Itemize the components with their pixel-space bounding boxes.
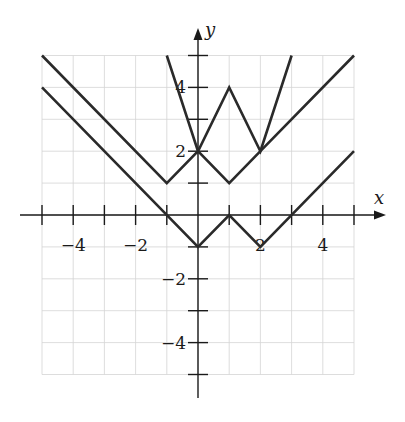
- x-axis-arrow-icon: [374, 211, 386, 220]
- x-tick-label: −4: [61, 235, 86, 255]
- y-tick-label: −4: [161, 333, 186, 353]
- y-axis-arrow-icon: [194, 28, 203, 40]
- coordinate-plane: −4−22442−2−4 x y: [0, 0, 405, 422]
- x-tick-label: −2: [123, 235, 148, 255]
- x-tick-label: 2: [255, 235, 266, 255]
- x-tick-label: 4: [317, 235, 328, 255]
- y-axis-label: y: [204, 19, 216, 40]
- y-tick-label: 2: [175, 141, 186, 161]
- y-tick-label: −2: [161, 269, 186, 289]
- x-axis-label: x: [374, 187, 384, 208]
